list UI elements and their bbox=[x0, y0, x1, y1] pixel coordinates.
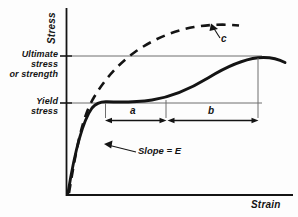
y-axis-title: Stress bbox=[46, 12, 57, 44]
engineering-stress-strain-curve bbox=[68, 58, 285, 193]
x-axis-title: Strain bbox=[251, 199, 281, 210]
dimension-label-b: b bbox=[208, 105, 214, 116]
stress-strain-figure: Stress Strain Ultimate stress or strengt… bbox=[0, 0, 298, 217]
dimension-arrow-b bbox=[168, 118, 259, 123]
dimension-arrow-a bbox=[105, 118, 167, 123]
yield-stress-label-line-2: stress bbox=[0, 106, 58, 116]
yield-stress-label-line-1: Yield bbox=[0, 96, 58, 106]
yield-stress-tick-label: Yield stress bbox=[0, 96, 58, 116]
curve-c-label: c bbox=[221, 33, 227, 44]
ultimate-stress-label-line-1: Ultimate bbox=[0, 49, 58, 59]
slope-leader-line bbox=[104, 141, 136, 152]
ultimate-stress-tick-label: Ultimate stress or strength bbox=[0, 49, 58, 79]
ultimate-stress-label-line-2: stress bbox=[0, 59, 58, 69]
dimension-label-a: a bbox=[130, 105, 136, 116]
ultimate-stress-label-line-3: or strength bbox=[0, 69, 58, 79]
slope-annotation-label: Slope = E bbox=[138, 146, 181, 157]
